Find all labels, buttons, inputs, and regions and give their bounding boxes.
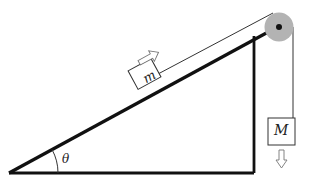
pulley-axle bbox=[276, 24, 282, 30]
incline-pulley-diagram: m M θ bbox=[0, 0, 321, 186]
diagram-canvas bbox=[0, 0, 321, 186]
angle-arc bbox=[52, 150, 58, 174]
label-M: M bbox=[274, 122, 288, 138]
rope-incline bbox=[158, 13, 273, 74]
label-theta: θ bbox=[62, 152, 69, 166]
arrow-down-icon bbox=[276, 150, 287, 168]
incline-triangle bbox=[9, 31, 270, 173]
